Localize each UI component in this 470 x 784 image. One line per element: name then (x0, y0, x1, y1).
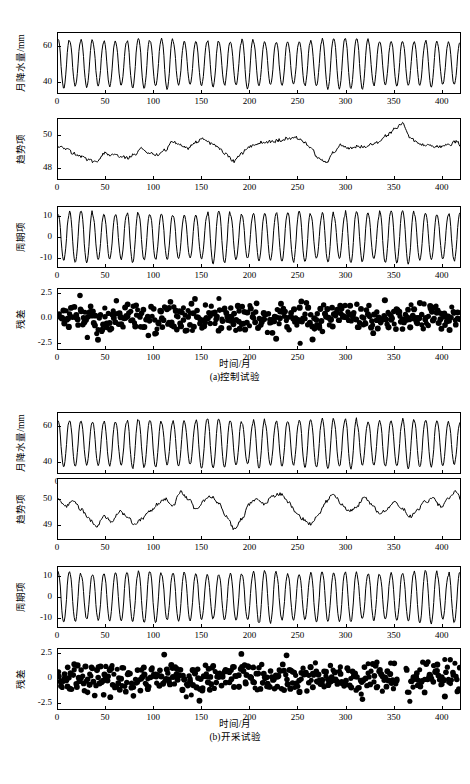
xtick-label: 350 (374, 543, 414, 552)
ytick-mark (57, 426, 61, 427)
xtick-mark (346, 346, 347, 350)
xtick-label: 400 (422, 631, 462, 640)
xtick-mark (346, 536, 347, 540)
xtick-mark (105, 176, 106, 180)
panel-a-precip: 月降水量/mm6040050100150200250300350400 (0, 32, 470, 94)
xtick-mark (297, 470, 298, 474)
plot-svg-a-precip (58, 33, 460, 93)
xtick-label: 200 (229, 183, 269, 192)
xtick-label: 150 (181, 631, 221, 640)
xtick-mark (394, 346, 395, 350)
xtick-label: 100 (133, 183, 173, 192)
xtick-mark (249, 264, 250, 268)
xtick-label: 350 (374, 631, 414, 640)
ytick-label: -2.5 (12, 338, 52, 347)
plotarea-a-trend (57, 118, 461, 180)
xtick-mark (442, 346, 443, 350)
xtick-mark (201, 470, 202, 474)
ytick-mark (57, 678, 61, 679)
xtick-mark (105, 470, 106, 474)
xtick-mark (105, 346, 106, 350)
xtick-mark (57, 470, 58, 474)
xtick-label: 400 (422, 97, 462, 106)
xtick-label: 350 (374, 97, 414, 106)
ytick-mark (57, 168, 61, 169)
xtick-label: 400 (422, 271, 462, 280)
plotarea-b-trend (57, 478, 461, 540)
xtick-label: 250 (277, 543, 317, 552)
xtick-label: 150 (181, 97, 221, 106)
xtick-mark (57, 536, 58, 540)
ytick-mark (57, 216, 61, 217)
xtick-mark (249, 346, 250, 350)
xtick-label: 100 (133, 97, 173, 106)
plotarea-b-seasonal (57, 566, 461, 628)
ytick-mark (57, 318, 61, 319)
xtick-label: 50 (85, 543, 125, 552)
xtick-mark (105, 624, 106, 628)
xtick-mark (57, 706, 58, 710)
plotarea-a-residual (57, 288, 461, 350)
xtick-mark (394, 624, 395, 628)
xtick-mark (297, 536, 298, 540)
xtick-label: 0 (37, 271, 77, 280)
xtick-label: 150 (181, 183, 221, 192)
xtick-mark (297, 346, 298, 350)
xtick-mark (297, 264, 298, 268)
xtick-mark (297, 624, 298, 628)
xtick-mark (394, 536, 395, 540)
xtick-mark (249, 176, 250, 180)
xtick-mark (153, 624, 154, 628)
xtick-mark (153, 346, 154, 350)
ytick-mark (57, 597, 61, 598)
ytick-label: 0.0 (12, 313, 52, 322)
xtick-label: 200 (229, 543, 269, 552)
xtick-label: 400 (422, 183, 462, 192)
xtick-mark (249, 536, 250, 540)
xtick-mark (57, 176, 58, 180)
xtick-label: 50 (85, 97, 125, 106)
xtick-label: 100 (133, 271, 173, 280)
xtick-label: 200 (229, 97, 269, 106)
xtick-mark (105, 536, 106, 540)
ytick-mark (57, 258, 61, 259)
xtick-mark (153, 536, 154, 540)
xtick-mark (394, 90, 395, 94)
xtick-mark (105, 706, 106, 710)
figure-stl-decomposition: 月降水量/mm6040050100150200250300350400趋势项50… (0, 0, 470, 784)
xtick-label: 250 (277, 183, 317, 192)
xtick-label: 150 (181, 271, 221, 280)
xtick-label: 300 (326, 543, 366, 552)
plot-svg-b-precip (58, 413, 460, 473)
xtick-mark (297, 706, 298, 710)
panel-b-residual: 残差2.50-2.5050100150200250300350400 (0, 648, 470, 710)
ytick-label: 0 (12, 232, 52, 241)
panel-b-trend: 趋势项5049050100150200250300350400 (0, 478, 470, 540)
xtick-label: 50 (85, 271, 125, 280)
xtick-label: 350 (374, 271, 414, 280)
ytick-mark (57, 618, 61, 619)
ytick-label: 50 (12, 494, 52, 503)
plot-svg-a-residual (58, 289, 460, 349)
panel-b-precip: 月降水量/mm6040050100150200250300350400 (0, 412, 470, 474)
ytick-mark (57, 343, 61, 344)
xtick-label: 300 (326, 97, 366, 106)
ylabel-b-trend: 趋势项 (12, 478, 28, 540)
xtick-label: 0 (37, 631, 77, 640)
xtick-mark (153, 706, 154, 710)
xtick-mark (249, 706, 250, 710)
ytick-mark (57, 82, 61, 83)
xtick-mark (153, 90, 154, 94)
xtick-mark (297, 176, 298, 180)
xtick-mark (442, 470, 443, 474)
xtick-mark (394, 470, 395, 474)
ytick-label: 60 (12, 41, 52, 50)
ytick-mark (57, 293, 61, 294)
plotarea-a-precip (57, 32, 461, 94)
xtick-label: 200 (229, 271, 269, 280)
panel-a-trend: 趋势项5048050100150200250300350400 (0, 118, 470, 180)
xtick-label: 200 (229, 631, 269, 640)
xtick-mark (57, 624, 58, 628)
xaxis-title-a: 时间/月 (0, 356, 470, 370)
xtick-mark (57, 346, 58, 350)
